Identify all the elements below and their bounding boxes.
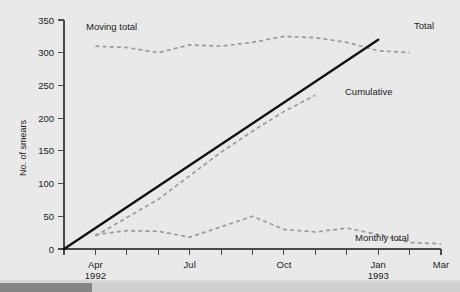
y-axis-title: No. of smears [18,119,28,176]
y-tick-label-50: 50 [43,211,54,222]
x-tick-label-apr: Apr [88,259,103,270]
y-tick-label-150: 150 [38,145,54,156]
horizontal-scrollbar[interactable] [0,280,460,292]
x-tick-sublabel-year-1993: 1993 [368,270,389,280]
scrollbar-track[interactable] [92,283,460,292]
y-tick-label-0: 0 [49,244,54,255]
y-tick-label-250: 250 [38,80,54,91]
x-tick-sublabel-1992: 1992 [85,270,106,280]
x-tick-label-jan: Jan [371,259,386,270]
series-label-cumulative: Cumulative [345,86,393,97]
y-tick-label-300: 300 [38,47,54,58]
y-tick-label-100: 100 [38,178,54,189]
scrollbar-thumb[interactable] [0,283,92,292]
chart-canvas: 0 50 100 150 200 250 300 350 No. of smea… [0,0,460,280]
chart-figure: 0 50 100 150 200 250 300 350 No. of smea… [0,0,460,280]
series-label-monthly-total: Monthly total [355,232,409,243]
y-tick-label-200: 200 [38,113,54,124]
series-label-moving-total: Moving total [86,21,137,32]
x-tick-label-jul: Jul [184,259,196,270]
series-label-total: Total [414,20,434,31]
x-tick-label-mar: Mar [433,259,449,270]
x-tick-label-oct: Oct [277,259,292,270]
y-tick-label-350: 350 [38,15,54,26]
